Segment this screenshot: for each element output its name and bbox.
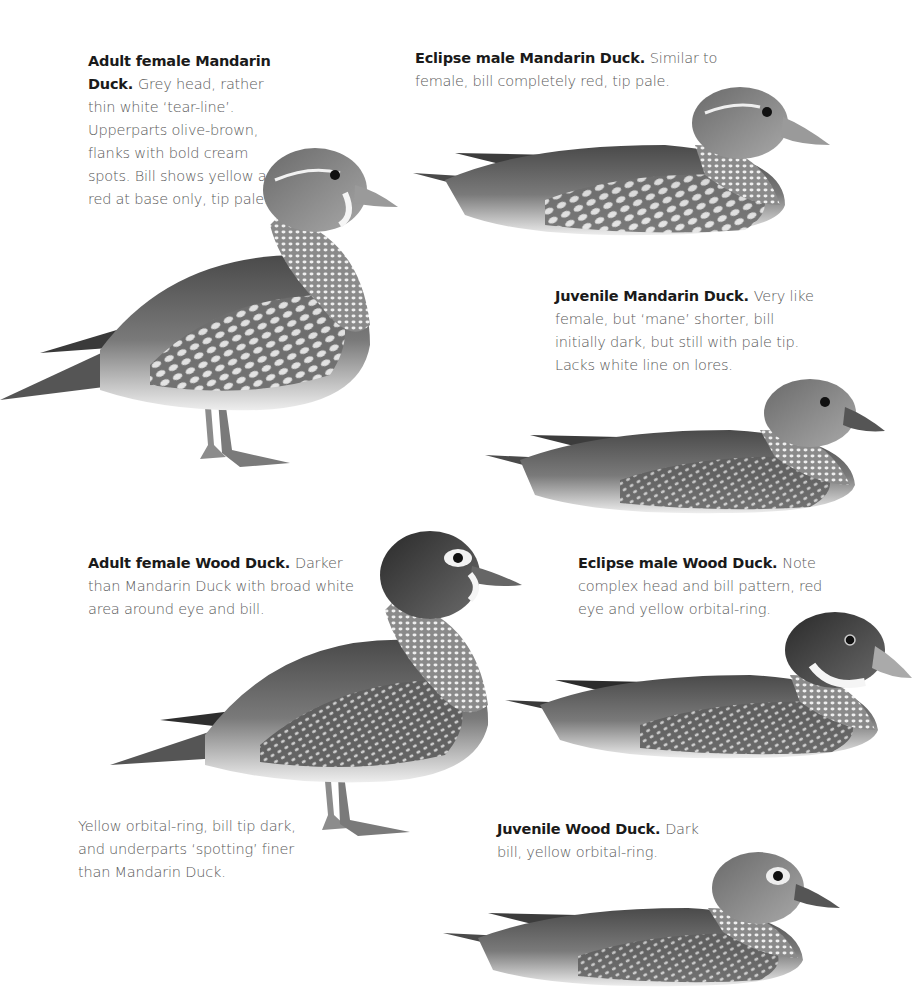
illustration-juvenile-mandarin bbox=[480, 375, 890, 515]
illustration-eclipse-male-mandarin bbox=[405, 85, 835, 240]
caption-text: Yellow orbital-ring, bill tip dark, and … bbox=[78, 818, 296, 880]
illustration-adult-female-wood bbox=[110, 530, 530, 840]
illustration-adult-female-mandarin bbox=[0, 145, 400, 475]
caption-juvenile-mandarin: Juvenile Mandarin Duck. Very like female… bbox=[555, 285, 825, 377]
illustration-eclipse-male-wood bbox=[500, 610, 915, 760]
caption-title: Juvenile Mandarin Duck. bbox=[555, 288, 754, 304]
caption-title: Eclipse male Mandarin Duck. bbox=[415, 50, 650, 66]
illustration-juvenile-wood bbox=[438, 848, 848, 988]
caption-adult-female-wood-extra: Yellow orbital-ring, bill tip dark, and … bbox=[78, 815, 318, 884]
caption-title: Juvenile Wood Duck. bbox=[497, 821, 665, 837]
caption-title: Eclipse male Wood Duck. bbox=[578, 555, 782, 571]
